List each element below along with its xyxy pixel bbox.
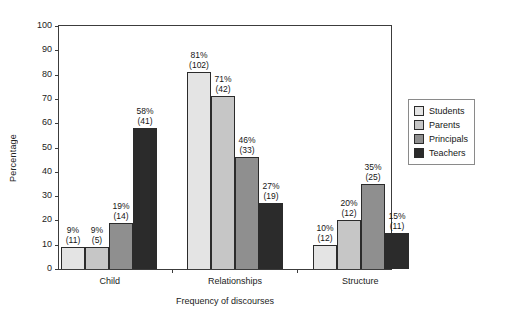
bar[interactable] — [259, 203, 283, 269]
bar-value-label: 9%(5) — [91, 225, 103, 245]
y-tick-label: 0 — [47, 263, 52, 273]
bar-slot: 19%(14) — [109, 26, 133, 269]
x-axis-label: Frequency of discourses — [58, 296, 392, 306]
bar-value-label: 71%(42) — [214, 74, 231, 94]
bar-value-label: 9%(11) — [66, 225, 81, 245]
y-tick-label: 80 — [42, 69, 52, 79]
legend-item[interactable]: Students — [414, 104, 468, 118]
x-tick-label: Structure — [342, 276, 379, 286]
bar-slot: 10%(12) — [313, 26, 337, 269]
y-tick-label: 100 — [37, 20, 52, 30]
bar[interactable] — [85, 247, 109, 269]
legend-item[interactable]: Principals — [414, 132, 468, 146]
y-tick-label: 20 — [42, 214, 52, 224]
bar-slot: 81%(102) — [187, 26, 211, 269]
bar[interactable] — [337, 220, 361, 269]
legend-swatch-icon — [414, 148, 424, 158]
bar-chart-figure: Percentage 0102030405060708090100 9%(11)… — [0, 0, 518, 318]
bar[interactable] — [211, 96, 235, 269]
bar-slot: 46%(33) — [235, 26, 259, 269]
x-tick-label: Child — [99, 276, 120, 286]
y-tick-label: 10 — [42, 239, 52, 249]
bar-value-label: 10%(12) — [316, 223, 333, 243]
plot-area: 0102030405060708090100 9%(11)9%(5)19%(14… — [58, 25, 392, 270]
legend-item[interactable]: Teachers — [414, 146, 468, 160]
bar-value-label: 27%(19) — [262, 181, 279, 201]
bar[interactable] — [361, 184, 385, 269]
bar-slot: 9%(5) — [85, 26, 109, 269]
x-tick-mark — [172, 269, 173, 273]
legend-item-label: Parents — [429, 120, 460, 130]
bar-value-label: 15%(11) — [388, 211, 405, 231]
bar-slot: 35%(25) — [361, 26, 385, 269]
chart-legend: StudentsParentsPrincipalsTeachers — [408, 99, 475, 165]
bar-value-label: 19%(14) — [112, 201, 129, 221]
y-tick-label: 50 — [42, 142, 52, 152]
bar[interactable] — [61, 247, 85, 269]
bar-slot: 71%(42) — [211, 26, 235, 269]
y-tick-label: 90 — [42, 44, 52, 54]
y-axis-label: Percentage — [6, 108, 20, 208]
bar-group: 81%(102)71%(42)46%(33)27%(19) — [187, 26, 283, 269]
bar-slot: 27%(19) — [259, 26, 283, 269]
bar-slot: 20%(12) — [337, 26, 361, 269]
legend-item-label: Principals — [429, 134, 468, 144]
bar[interactable] — [109, 223, 133, 269]
bar-value-label: 81%(102) — [189, 50, 209, 70]
bar[interactable] — [133, 128, 157, 269]
bar[interactable] — [313, 245, 337, 269]
y-tick-label: 70 — [42, 93, 52, 103]
bar[interactable] — [235, 157, 259, 269]
y-tick-mark — [55, 269, 59, 270]
bar-value-label: 20%(12) — [340, 198, 357, 218]
x-tick-mark — [297, 269, 298, 273]
bar-group: 9%(11)9%(5)19%(14)58%(41) — [61, 26, 157, 269]
bar[interactable] — [385, 233, 409, 269]
bar-value-label: 35%(25) — [364, 162, 381, 182]
x-tick-label: Relationships — [208, 276, 262, 286]
bar-value-label: 46%(33) — [238, 135, 255, 155]
bar-slot: 58%(41) — [133, 26, 157, 269]
bar-slot: 9%(11) — [61, 26, 85, 269]
legend-item-label: Teachers — [429, 148, 466, 158]
bar-group: 10%(12)20%(12)35%(25)15%(11) — [313, 26, 409, 269]
y-tick-label: 60 — [42, 117, 52, 127]
legend-item[interactable]: Parents — [414, 118, 468, 132]
bar-value-label: 58%(41) — [136, 106, 153, 126]
legend-item-label: Students — [429, 106, 465, 116]
bar-groups: 9%(11)9%(5)19%(14)58%(41)81%(102)71%(42)… — [59, 26, 391, 269]
bar[interactable] — [187, 72, 211, 269]
bar-slot: 15%(11) — [385, 26, 409, 269]
y-tick-label: 30 — [42, 190, 52, 200]
legend-swatch-icon — [414, 120, 424, 130]
y-tick-label: 40 — [42, 166, 52, 176]
legend-swatch-icon — [414, 106, 424, 116]
legend-swatch-icon — [414, 134, 424, 144]
